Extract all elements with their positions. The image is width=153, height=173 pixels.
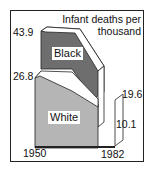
x-tick-1950: 1950 — [23, 148, 46, 159]
black-end-value: 19.6 — [122, 89, 142, 100]
infant-deaths-chart: Infant deaths per thousand 43.9 26.8 19.… — [0, 0, 153, 173]
black-series-label: Black — [52, 47, 83, 60]
black-start-value: 43.9 — [13, 27, 33, 38]
white-end-value: 10.1 — [116, 119, 136, 130]
title-line-2: thousand — [62, 26, 141, 38]
x-tick-1982: 1982 — [101, 149, 124, 160]
chart-title: Infant deaths per thousand — [62, 14, 141, 38]
black-series-side — [98, 66, 104, 127]
title-line-1: Infant deaths per — [62, 14, 141, 26]
white-series-label: White — [48, 111, 80, 124]
white-start-value: 26.8 — [13, 71, 33, 82]
